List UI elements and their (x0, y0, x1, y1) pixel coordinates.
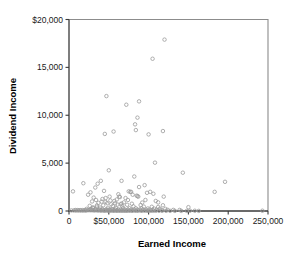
scatter-chart: 05,00010,00015,000$20,0000$50,000100,000… (0, 0, 288, 255)
data-point (109, 199, 113, 203)
y-tick-label: 10,000 (37, 110, 63, 120)
data-point (101, 204, 105, 208)
data-point (107, 169, 111, 173)
data-point (131, 193, 135, 197)
data-point (161, 204, 165, 208)
x-tick-label: 0 (67, 216, 72, 226)
data-point (90, 200, 94, 204)
data-point (147, 133, 151, 137)
data-point (162, 195, 166, 199)
y-tick-label: $20,000 (32, 15, 63, 25)
data-point (181, 171, 185, 175)
data-point (102, 189, 106, 193)
data-point (143, 183, 147, 187)
x-tick-label: $50,000 (93, 216, 124, 226)
data-point (187, 205, 191, 209)
data-point (125, 203, 129, 207)
data-point (108, 195, 112, 199)
data-point (144, 198, 148, 202)
x-tick-label: 150,000 (173, 216, 204, 226)
data-point (137, 100, 141, 104)
axis-ticks (66, 20, 269, 215)
data-point (103, 132, 107, 136)
data-point (152, 192, 156, 196)
data-point (136, 116, 140, 120)
data-point (86, 193, 90, 197)
data-points (70, 38, 265, 213)
data-point (104, 196, 108, 200)
data-point (82, 181, 86, 185)
y-axis-title: Dividend Income (7, 78, 18, 154)
data-point (137, 185, 141, 189)
data-point (223, 180, 227, 184)
y-tick-label: 15,000 (37, 62, 63, 72)
data-point (96, 182, 100, 186)
data-point (145, 191, 149, 195)
data-point (112, 130, 116, 134)
data-point (94, 186, 98, 190)
data-point (99, 179, 103, 183)
x-tick-label: 100,000 (133, 216, 164, 226)
data-point (105, 94, 109, 98)
data-point (213, 190, 217, 194)
data-point (126, 198, 129, 202)
x-axis-title: Earned Income (138, 238, 206, 249)
data-point (124, 196, 128, 200)
data-point (151, 57, 155, 61)
x-tick-label: 250,000 (253, 216, 284, 226)
plot-area: 05,00010,00015,000$20,0000$50,000100,000… (0, 0, 288, 255)
data-point (120, 179, 124, 183)
data-point (161, 129, 165, 133)
data-point (133, 175, 137, 179)
data-point (125, 103, 129, 107)
y-tick-label: 0 (58, 206, 63, 216)
data-point (71, 190, 75, 194)
data-point (134, 128, 138, 132)
data-point (133, 123, 137, 127)
x-tick-label: 200,000 (213, 216, 244, 226)
data-point (163, 38, 167, 42)
axis-tick-labels: 05,00010,00015,000$20,0000$50,000100,000… (32, 15, 283, 227)
y-tick-label: 5,000 (42, 158, 64, 168)
data-point (153, 161, 157, 165)
